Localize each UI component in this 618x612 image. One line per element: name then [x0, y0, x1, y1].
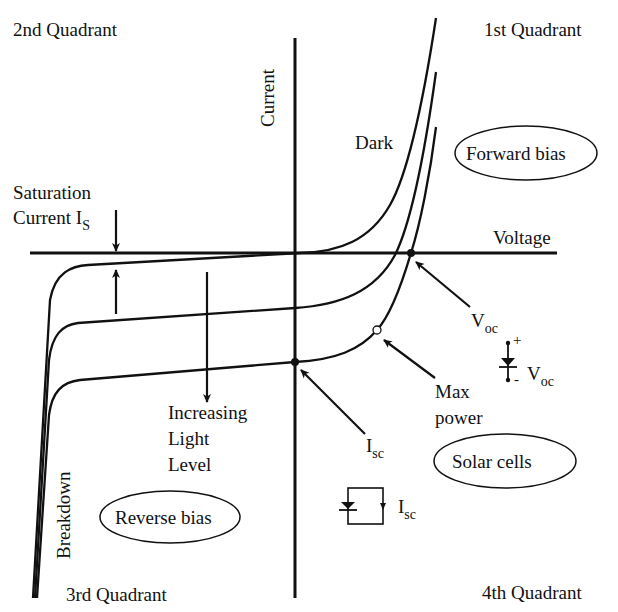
isc-point: [291, 358, 299, 366]
iv-diagram-canvas: [0, 0, 618, 612]
solar-cells-label: Solar cells: [452, 452, 532, 471]
forward-bias-label: Forward bias: [466, 144, 566, 163]
voc-plus-sign: +: [513, 333, 521, 348]
isc-label-subscript: sc: [372, 446, 384, 461]
dark-curve-label: Dark: [355, 133, 393, 152]
voc-circuit-main: V: [527, 363, 541, 384]
isc-label: Isc: [366, 436, 384, 455]
voc-circuit-label: Voc: [527, 364, 554, 383]
current-axis-label: Current: [258, 69, 277, 127]
saturation-label-line2: Current IS: [13, 208, 90, 227]
voc-label-subscript: oc: [485, 321, 498, 336]
max-power-label-line1: Max: [435, 382, 470, 401]
breakdown-label: Breakdown: [54, 471, 73, 559]
quadrant-1-label: 1st Quadrant: [484, 20, 582, 39]
voc-circuit-subscript: oc: [541, 374, 554, 389]
isc-circuit-subscript: sc: [404, 507, 416, 522]
increasing-label-line3: Level: [168, 455, 211, 474]
reverse-bias-label: Reverse bias: [115, 508, 212, 527]
max-power-point: [373, 326, 381, 334]
voc-point: [407, 249, 415, 257]
quadrant-2-label: 2nd Quadrant: [13, 20, 117, 39]
isc-diode-circuit-symbol: [339, 488, 386, 524]
saturation-label-line1: Saturation: [13, 183, 91, 202]
voc-minus-sign: -: [514, 372, 519, 387]
saturation-label-text: Current I: [13, 207, 82, 228]
quadrant-3-label: 3rd Quadrant: [66, 585, 167, 604]
max-power-label-line2: power: [435, 408, 482, 427]
dark-curve: [33, 18, 436, 598]
increasing-label-line1: Increasing: [168, 403, 247, 422]
voltage-axis-label: Voltage: [493, 228, 551, 247]
voc-pointer-arrow: [416, 262, 470, 307]
isc-circuit-label: Isc: [398, 497, 416, 516]
max-power-pointer-arrow: [384, 340, 435, 378]
voc-label-main: V: [471, 310, 485, 331]
quadrant-4-label: 4th Quadrant: [482, 583, 582, 602]
voc-label: Voc: [471, 311, 498, 330]
saturation-label-subscript: S: [82, 218, 90, 233]
illuminated-curve-2: [37, 127, 436, 598]
increasing-label-line2: Light: [168, 429, 209, 448]
isc-pointer-arrow: [301, 370, 365, 434]
